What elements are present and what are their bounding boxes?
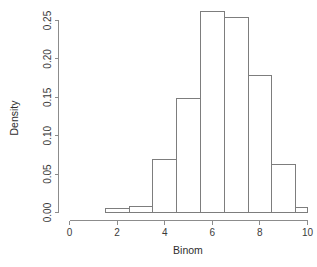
y-axis (55, 21, 59, 213)
x-axis-title: Binom (173, 244, 203, 256)
histogram-bar (177, 99, 201, 213)
histogram-bar (105, 209, 129, 213)
x-tick-label: 0 (67, 227, 73, 238)
histogram-bar (200, 11, 224, 212)
x-tick-label: 10 (302, 227, 314, 238)
x-tick-label: 2 (114, 227, 120, 238)
histogram-bar (153, 160, 177, 213)
plot-canvas: 0.000.050.100.150.200.25 0246810 Density… (0, 0, 317, 267)
histogram-bar (224, 17, 248, 212)
y-tick-label: 0.05 (42, 164, 53, 184)
histogram-bar (272, 165, 296, 213)
x-tick-label: 8 (257, 227, 263, 238)
y-tick-label: 0.25 (42, 10, 53, 30)
y-tick-labels: 0.000.050.100.150.200.25 (42, 10, 53, 222)
x-tick-label: 6 (210, 227, 216, 238)
y-tick-label: 0.15 (42, 87, 53, 107)
y-tick-label: 0.10 (42, 126, 53, 146)
y-tick-label: 0.20 (42, 49, 53, 69)
histogram-bar (248, 76, 272, 213)
histogram-bar (296, 207, 308, 212)
x-tick-labels: 0246810 (67, 227, 314, 238)
y-tick-label: 0.00 (42, 202, 53, 222)
x-axis (70, 221, 308, 225)
y-axis-title: Density (8, 100, 20, 136)
histogram-bars (105, 11, 307, 212)
histogram-bar (129, 206, 153, 212)
x-tick-label: 4 (162, 227, 168, 238)
histogram-plot: 0.000.050.100.150.200.25 0246810 Density… (0, 0, 317, 267)
